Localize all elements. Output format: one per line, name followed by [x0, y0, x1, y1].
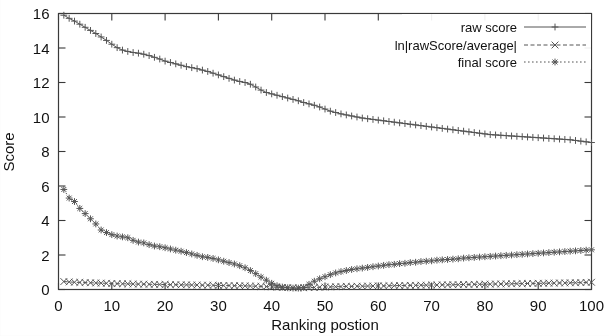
x-tick-label: 60 — [370, 297, 387, 314]
y-tick-label: 8 — [41, 143, 49, 160]
x-tick-label: 0 — [54, 297, 62, 314]
x-tick-label: 10 — [103, 297, 120, 314]
y-tick-label: 12 — [33, 74, 50, 91]
x-axis-title: Ranking postion — [271, 316, 379, 333]
x-tick-label: 40 — [263, 297, 280, 314]
y-tick-label: 0 — [41, 281, 49, 298]
score-vs-ranking-line-chart: 0246810121416 0102030405060708090100 Ran… — [0, 0, 609, 336]
x-tick-label: 50 — [317, 297, 334, 314]
legend-label-3: final score — [458, 55, 517, 70]
y-axis-title: Score — [0, 132, 17, 171]
y-tick-label: 10 — [33, 109, 50, 126]
legend-label-2: ln|rawScore/average| — [395, 38, 517, 53]
y-tick-label: 16 — [33, 5, 50, 22]
x-tick-label: 20 — [157, 297, 174, 314]
series-line — [64, 189, 592, 288]
x-tick-label: 90 — [530, 297, 547, 314]
chart-legend: raw scoreln|rawScore/average|final score — [395, 14, 591, 70]
y-tick-label: 14 — [33, 40, 50, 57]
x-tick-label: 100 — [579, 297, 604, 314]
x-tick-label: 30 — [210, 297, 227, 314]
series-final-score — [60, 186, 594, 291]
y-tick-label: 6 — [41, 178, 49, 195]
chart-figure: 0246810121416 0102030405060708090100 Ran… — [0, 0, 609, 336]
x-tick-label: 80 — [477, 297, 494, 314]
legend-label-1: raw score — [461, 20, 517, 35]
y-tick-label: 4 — [41, 212, 49, 229]
x-tick-label: 70 — [423, 297, 440, 314]
y-tick-label: 2 — [41, 247, 49, 264]
